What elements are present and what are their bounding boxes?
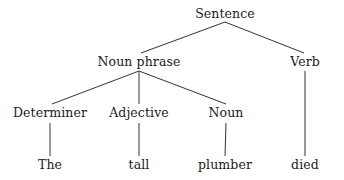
tree-node-died: died	[291, 159, 319, 172]
tree-edge-noun-to-plumber	[225, 123, 226, 156]
tree-node-verb: Verb	[290, 56, 320, 69]
tree-node-the: The	[38, 159, 62, 172]
tree-node-tall: tall	[129, 159, 150, 172]
tree-node-noun: Noun	[209, 107, 244, 120]
tree-edge-layer	[0, 0, 344, 180]
tree-node-determiner: Determiner	[13, 107, 87, 120]
tree-edge-noun-phrase-to-determiner	[52, 71, 139, 104]
tree-node-noun-phrase: Noun phrase	[98, 56, 181, 69]
tree-edge-sentence-to-verb	[225, 22, 304, 53]
tree-node-adjective: Adjective	[109, 107, 169, 120]
tree-node-plumber: plumber	[198, 159, 252, 172]
tree-edge-sentence-to-noun-phrase	[141, 22, 225, 53]
tree-node-sentence: Sentence	[195, 8, 255, 21]
syntax-tree-diagram: SentenceNoun phraseVerbDeterminerAdjecti…	[0, 0, 344, 180]
tree-edge-noun-phrase-to-noun	[139, 71, 226, 104]
